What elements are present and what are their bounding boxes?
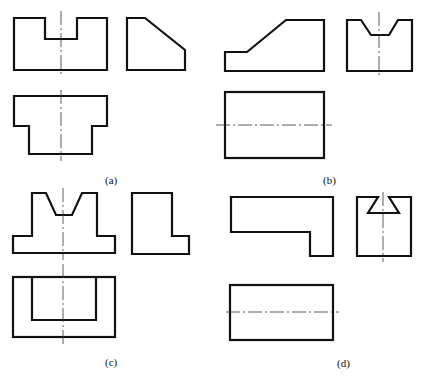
- figure-a-side-view: [127, 18, 185, 70]
- figure-c-front-view: [13, 193, 115, 253]
- figure-a-top-view: [14, 96, 107, 154]
- figure-c: (c): [13, 188, 189, 369]
- figure-d-label: (d): [337, 357, 350, 370]
- figure-a-label: (a): [105, 174, 118, 187]
- figure-b-side-view: [347, 20, 412, 71]
- figure-c-side-view: [132, 193, 189, 254]
- figure-c-top-view-outer: [13, 277, 115, 337]
- figure-c-top-view-inner: [32, 277, 96, 320]
- figure-d: (d): [226, 192, 411, 370]
- orthographic-drawings: (a) (b) (c) (d): [0, 0, 425, 382]
- figure-b-label: (b): [323, 174, 336, 187]
- figure-d-side-view: [357, 197, 411, 256]
- figure-a-front-view: [14, 18, 107, 70]
- figure-d-top-view: [230, 285, 333, 340]
- figure-a: (a): [14, 11, 185, 187]
- figure-c-label: (c): [105, 356, 118, 369]
- figure-b: (b): [216, 12, 412, 187]
- figure-b-front-view: [225, 20, 324, 71]
- figure-d-front-view: [231, 197, 333, 256]
